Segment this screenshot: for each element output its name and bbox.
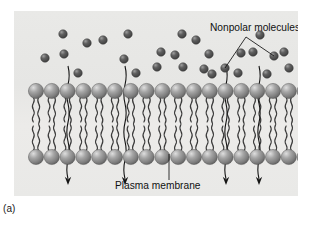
phospholipid-head — [281, 83, 296, 98]
phospholipid-head — [171, 83, 186, 98]
phospholipid-head — [297, 149, 298, 164]
phospholipid-head — [139, 83, 154, 98]
phospholipid-head — [92, 149, 107, 164]
nonpolar-molecule — [249, 48, 258, 57]
phospholipid-head — [250, 149, 265, 164]
nonpolar-molecule — [41, 54, 50, 63]
phospholipid-head — [139, 149, 154, 164]
nonpolar-molecule — [60, 50, 69, 59]
nonpolar-molecule — [153, 63, 162, 72]
phospholipid-head — [28, 83, 43, 98]
phospholipid-head — [60, 149, 75, 164]
phospholipid-head — [92, 83, 107, 98]
phospholipid-head — [265, 149, 280, 164]
diffusion-figure: Nonpolar molecules Plasma membrane (a) — [0, 0, 312, 227]
phospholipid-head — [76, 149, 91, 164]
nonpolar-molecule — [124, 30, 133, 39]
phospholipid-head — [218, 149, 233, 164]
phospholipid-head — [234, 83, 249, 98]
phospholipid-head — [186, 83, 201, 98]
nonpolar-molecule — [178, 30, 187, 39]
nonpolar-molecule — [234, 69, 243, 78]
phospholipid-head — [155, 149, 170, 164]
nonpolar-molecule — [179, 63, 188, 72]
phospholipid-head — [76, 83, 91, 98]
phospholipid-head — [123, 149, 138, 164]
phospholipid-head — [123, 83, 138, 98]
nonpolar-molecule — [237, 49, 246, 58]
nonpolar-molecule — [74, 69, 83, 78]
phospholipid-head — [218, 83, 233, 98]
phospholipid-head — [28, 149, 43, 164]
phospholipid-head — [107, 83, 122, 98]
nonpolar-molecule — [132, 69, 141, 78]
phospholipid-head — [297, 83, 298, 98]
nonpolar-molecule — [208, 70, 217, 79]
diagram-canvas: Nonpolar molecules Plasma membrane — [14, 11, 298, 196]
phospholipid-head — [186, 149, 201, 164]
nonpolar-molecule — [157, 48, 166, 57]
phospholipid-head — [60, 83, 75, 98]
phospholipid-head — [107, 149, 122, 164]
phospholipid-head — [250, 83, 265, 98]
phospholipid-head — [202, 83, 217, 98]
phospholipid-heads — [28, 83, 298, 164]
plasma-membrane-label: Plasma membrane — [115, 180, 201, 191]
phospholipid-head — [44, 149, 59, 164]
nonpolar-molecule — [263, 70, 272, 79]
nonpolar-molecule — [120, 55, 129, 64]
nonpolar-molecule — [99, 36, 108, 45]
nonpolar-molecule — [171, 51, 180, 60]
phospholipid-head — [171, 149, 186, 164]
phospholipid-head — [155, 83, 170, 98]
phospholipid-head — [202, 149, 217, 164]
phospholipid-head — [44, 83, 59, 98]
phospholipid-head — [265, 83, 280, 98]
nonpolar-molecule — [192, 36, 201, 45]
nonpolar-molecule — [83, 39, 92, 48]
phospholipid-head — [234, 149, 249, 164]
nonpolar-molecules-label: Nonpolar molecules — [210, 22, 298, 33]
figure-caption: (a) — [3, 203, 16, 214]
diagram-panel: Nonpolar molecules Plasma membrane — [14, 11, 298, 196]
nonpolar-molecule — [59, 30, 68, 39]
nonpolar-molecule — [280, 48, 289, 57]
nonpolar-molecule — [205, 50, 214, 59]
phospholipid-head — [281, 149, 296, 164]
nonpolar-molecule — [285, 64, 294, 73]
nonpolar-molecule — [200, 65, 209, 74]
